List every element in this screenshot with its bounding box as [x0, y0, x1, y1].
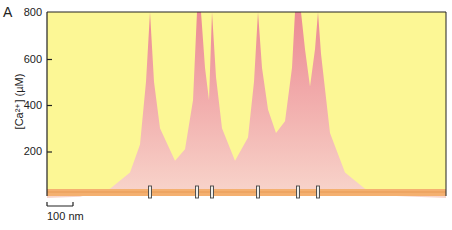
channel-marker	[149, 186, 152, 198]
plot-area	[0, 0, 452, 230]
channel-marker	[317, 186, 320, 198]
channel-marker	[257, 186, 260, 198]
scale-bar-label: 100 nm	[47, 210, 84, 222]
scale-bar	[47, 202, 73, 206]
channel-marker	[297, 186, 300, 198]
channel-marker	[196, 186, 199, 198]
channel-marker	[211, 186, 214, 198]
